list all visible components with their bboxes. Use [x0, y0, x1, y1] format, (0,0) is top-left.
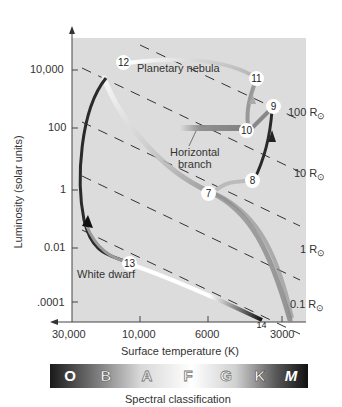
- stage-point-10: 10: [239, 123, 254, 138]
- y-axis-title: Luminosity (solar units): [12, 122, 24, 262]
- label-white-dwarf: White dwarf: [77, 268, 135, 280]
- x-tick-10000: 10,000: [122, 328, 156, 340]
- spectral-class-f: F: [178, 367, 198, 384]
- sun-symbol-icon: ⊙: [317, 111, 325, 121]
- sun-symbol-icon: ⊙: [316, 303, 324, 313]
- lower-main-sequence-track: [216, 194, 292, 318]
- sun-symbol-icon: ⊙: [317, 248, 325, 258]
- label-horizontal-branch-line1: Horizontal: [170, 146, 220, 158]
- radius-text: 1 R: [300, 243, 317, 255]
- stage-point-11: 11: [249, 71, 264, 86]
- stage-point-12: 12: [116, 55, 131, 70]
- radius-text: 10 R: [294, 167, 317, 179]
- spectral-class-bar: O B A F G K M: [50, 364, 308, 388]
- y-tick-0-0001: .0001: [37, 296, 65, 308]
- spectral-class-g: G: [216, 367, 236, 384]
- spectral-class-o: O: [60, 367, 80, 384]
- x-tick-30000: 30,000: [52, 328, 86, 340]
- label-planetary-nebula: Planetary nebula: [137, 62, 220, 74]
- stage-point-7: 7: [201, 186, 216, 201]
- radius-label-100: 100 R⊙: [288, 106, 325, 121]
- sun-symbol-icon: ⊙: [317, 172, 325, 182]
- radius-text: 0.1 R: [290, 298, 316, 310]
- spectral-class-k: K: [250, 367, 270, 384]
- y-tick-10000: 10,000: [30, 63, 64, 75]
- spectral-class-b: B: [96, 367, 116, 384]
- radius-label-0-1: 0.1 R⊙: [290, 298, 324, 313]
- label-horizontal-branch-line2: branch: [178, 158, 212, 170]
- y-tick-100: 100: [48, 121, 66, 133]
- main-sequence-track: [104, 78, 290, 320]
- spectral-class-a: A: [137, 367, 157, 384]
- x-tick-3000: 3000: [270, 328, 294, 340]
- spectral-classification-title: Spectral classification: [125, 393, 231, 405]
- stage-point-8: 8: [245, 173, 260, 188]
- radius-text: 100 R: [288, 106, 317, 118]
- radius-label-1: 1 R⊙: [300, 243, 325, 258]
- spectral-class-m: M: [281, 367, 301, 384]
- horizontal-branch: [180, 125, 246, 131]
- stage-point-14: 14: [254, 318, 269, 333]
- white-dwarf-track: [130, 264, 262, 320]
- radius-label-10: 10 R⊙: [294, 167, 325, 182]
- y-tick-0-01: 0.01: [44, 241, 65, 253]
- radius-lines: [82, 45, 300, 334]
- stage-point-9: 9: [266, 99, 281, 114]
- y-tick-1: 1: [60, 183, 66, 195]
- x-tick-6000: 6000: [195, 328, 219, 340]
- x-axis-title: Surface temperature (K): [121, 345, 239, 357]
